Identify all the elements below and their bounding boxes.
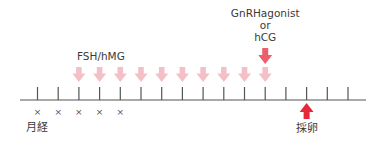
down-arrow-icon: [197, 67, 210, 82]
retrieval-arrow-icon: [300, 103, 314, 119]
menses-cross-marker: ×: [117, 107, 125, 117]
down-arrow-icon: [217, 67, 230, 82]
down-arrow-icon: [134, 67, 147, 82]
ovarian-stimulation-timeline: ××××× 月経 FSH/hMG GnRHagonist or hCG 採卵: [0, 0, 384, 146]
menses-label: 月経: [26, 122, 48, 134]
trigger-label-or: or: [260, 19, 271, 31]
menses-cross-marker: ×: [54, 107, 62, 117]
down-arrow-icon: [93, 67, 106, 82]
trigger-label-gnrh-agonist: GnRHagonist: [231, 7, 300, 19]
menses-cross-marker: ×: [34, 107, 42, 117]
trigger-label-hcg: hCG: [254, 31, 276, 43]
down-arrow-icon: [114, 67, 127, 82]
menses-cross-marker: ×: [96, 107, 104, 117]
fsh-hmg-arrows: [72, 67, 271, 82]
egg-retrieval-label: 採卵: [296, 123, 318, 135]
down-arrow-icon: [259, 67, 272, 82]
down-arrow-icon: [155, 67, 168, 82]
day-ticks: [38, 87, 349, 100]
down-arrow-icon: [72, 67, 85, 82]
fsh-hmg-label: FSH/hMG: [77, 50, 125, 62]
trigger-arrow-icon: [258, 48, 272, 64]
down-arrow-icon: [238, 67, 251, 82]
timeline-graphic: [0, 0, 384, 146]
down-arrow-icon: [176, 67, 189, 82]
menses-cross-marker: ×: [75, 107, 83, 117]
